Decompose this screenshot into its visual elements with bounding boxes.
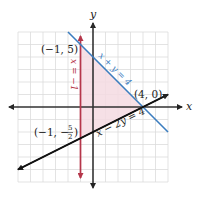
equation-label-x-eq-neg1: x = −1 [69,59,79,91]
svg-text:): ) [74,126,78,138]
svg-text:(−1, −: (−1, − [34,126,69,138]
y-axis-label: y [89,8,97,21]
svg-text:2: 2 [68,133,72,141]
x-axis-label: x [186,100,193,113]
graph-figure: y x (−1, 5) (4, 0) (−1, − 5 2 ) x = −1 x… [0,0,198,197]
vertex-label-neg1-neg5half: (−1, − 5 2 ) [34,124,78,141]
vertex-label-4-0: (4, 0) [134,88,162,100]
svg-text:5: 5 [68,124,72,132]
vertex-label-neg1-5: (−1, 5) [41,43,78,55]
